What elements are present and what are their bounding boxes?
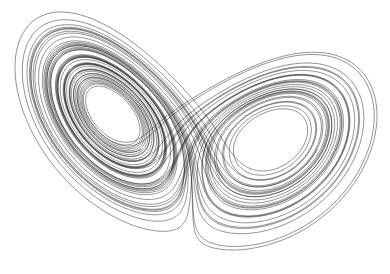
attractor-trajectory: [15, 12, 377, 250]
attractor-plot: [0, 0, 390, 274]
lorenz-attractor-figure: Lorenz attractor: [0, 0, 390, 274]
